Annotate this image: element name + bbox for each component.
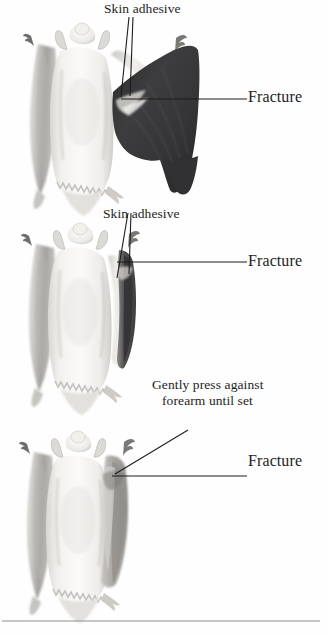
panel-3-caption-line-2: forearm until set bbox=[162, 393, 253, 408]
panel-2: Skin adhesive Fracture bbox=[0, 200, 328, 390]
panel-3-caption-line-1: Gently press against bbox=[152, 377, 263, 392]
panel-1-label-skin-adhesive: Skin adhesive bbox=[104, 1, 181, 16]
panel-1-label-fracture: Fracture bbox=[248, 88, 302, 106]
figure-root: Skin adhesive Fracture Skin adhesive Fra… bbox=[0, 0, 328, 635]
panel-2-label-skin-adhesive: Skin adhesive bbox=[103, 206, 180, 221]
panel-1: Skin adhesive Fracture bbox=[0, 0, 328, 215]
panel-3-label-fracture: Fracture bbox=[248, 452, 302, 470]
panel-2-label-fracture: Fracture bbox=[248, 252, 302, 270]
panel-3: Gently press against forearm until set F… bbox=[0, 385, 328, 620]
